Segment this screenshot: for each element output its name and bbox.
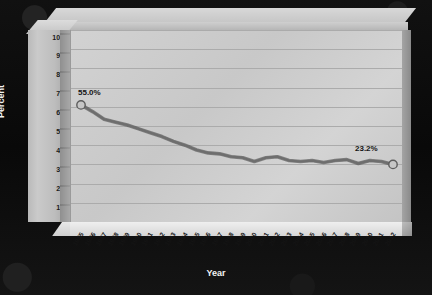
last-point-marker xyxy=(389,160,397,168)
y-notch-70 xyxy=(60,90,70,92)
y-tick-80: 80 xyxy=(30,71,64,78)
line-series xyxy=(71,30,403,222)
y-tick-20: 20 xyxy=(30,185,64,192)
y-tick-60: 60 xyxy=(30,109,64,116)
y-notch-80 xyxy=(60,71,70,73)
y-notch-60 xyxy=(60,109,70,111)
y-notch-10 xyxy=(60,204,70,206)
first-point-label: 55.0% xyxy=(78,88,101,97)
y-notch-30 xyxy=(60,166,70,168)
y-notch-90 xyxy=(60,52,70,54)
y-notch-50 xyxy=(60,128,70,130)
plot-area: 55.0%23.2% xyxy=(70,30,403,222)
y-notch-20 xyxy=(60,185,70,187)
chart-screenshot: 100 90 80 70 60 50 40 30 20 10 0 55.0%23… xyxy=(0,0,432,295)
line-shadow xyxy=(81,105,393,165)
y-tick-10: 10 xyxy=(30,204,64,211)
y-tick-30: 30 xyxy=(30,166,64,173)
y-notch-100 xyxy=(60,33,70,35)
chart-top-slab-face xyxy=(56,22,408,30)
y-tick-0: 0 xyxy=(30,218,64,225)
last-point-label: 23.2% xyxy=(355,144,378,153)
first-point-marker xyxy=(77,101,85,109)
chart-3d-block: 100 90 80 70 60 50 40 30 20 10 0 55.0%23… xyxy=(16,8,420,258)
y-notch-40 xyxy=(60,147,70,149)
y-tick-100: 100 xyxy=(30,34,64,41)
y-tick-50: 50 xyxy=(30,128,64,135)
y-tick-40: 40 xyxy=(30,147,64,154)
y-axis-title: Percent xyxy=(0,85,6,118)
y-tick-90: 90 xyxy=(30,52,64,59)
y-axis-pillar-face xyxy=(60,30,70,222)
x-axis-title: Year xyxy=(0,268,432,278)
plot-right-edge xyxy=(402,30,411,222)
floor-right-bevel xyxy=(402,222,412,236)
y-tick-70: 70 xyxy=(30,90,64,97)
